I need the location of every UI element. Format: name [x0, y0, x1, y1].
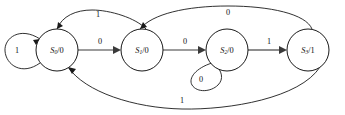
edge-path-s0-self: [5, 33, 40, 68]
edge-label-s1-s2: 0: [183, 37, 187, 46]
state-output-s1: 0: [145, 46, 149, 55]
edge-label-s0-self: 1: [15, 46, 19, 55]
edge-label-s3-s1: 0: [226, 8, 230, 17]
fsm-diagram: S0/0 S1/0 S2/0 S3/1 1 0 1 0 0 1: [0, 0, 345, 115]
state-output-s0: 0: [60, 46, 64, 55]
edge-label-s1-s0: 1: [96, 10, 100, 19]
transition-s0-to-s0: [5, 33, 40, 68]
state-label-s2: S2/0: [220, 46, 234, 56]
edge-label-s0-s1: 0: [98, 37, 102, 46]
transition-s1-to-s2: [163, 46, 206, 54]
state-output-s2: 0: [230, 46, 234, 55]
arrow-head-s3-s0: [68, 67, 76, 74]
state-label-s0: S0/0: [50, 46, 64, 56]
fsm-canvas: S0/0 S1/0 S2/0 S3/1 1 0 1 0 0 1: [0, 0, 345, 115]
state-node-s3[interactable]: S3/1: [287, 29, 329, 71]
transition-s2-to-s3: [248, 46, 287, 54]
state-output-s3: 1: [311, 46, 315, 55]
arrow-head-s1-s2: [198, 46, 206, 54]
arrow-head-s2-s3: [279, 46, 287, 54]
edge-label-s2-self: 0: [199, 75, 203, 84]
state-label-s1: S1/0: [135, 46, 149, 56]
state-node-s1[interactable]: S1/0: [121, 29, 163, 71]
state-node-s2[interactable]: S2/0: [206, 29, 248, 71]
state-label-s3: S3/1: [301, 46, 315, 56]
edge-label-s2-s3: 1: [267, 37, 271, 46]
transition-s0-to-s1: [78, 46, 121, 54]
edge-label-s3-s0: 1: [180, 96, 184, 105]
transition-s1-to-s0: [57, 10, 146, 29]
state-node-s0[interactable]: S0/0: [36, 29, 78, 71]
arrow-head-s0-s1: [113, 46, 121, 54]
edge-path-s1-s0: [57, 10, 146, 29]
